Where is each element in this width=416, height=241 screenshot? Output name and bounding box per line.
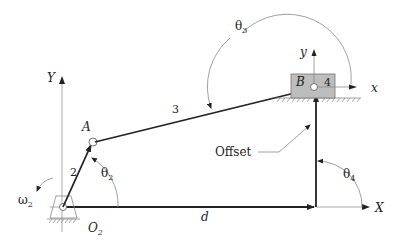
ground-pivot-label: O2: [88, 221, 103, 237]
slider-ground: [276, 98, 361, 102]
theta-3-label: θ3: [235, 19, 247, 35]
link-3-coupler: [95, 89, 311, 142]
link-3-label: 3: [172, 103, 179, 116]
distance-d-label: d: [201, 210, 209, 224]
global-x-axis-label: X: [374, 201, 384, 215]
point-a-label: A: [81, 120, 91, 134]
local-x-axis-label: x: [371, 81, 378, 95]
theta-3-arc: [242, 14, 351, 84]
slider-crank-diagram: Y X d O2 2 A 3 θ2 ω2: [0, 0, 416, 241]
pin-b: [311, 84, 318, 91]
local-y-axis-label: y: [299, 45, 307, 59]
link-2-crank: [63, 145, 91, 207]
link-2-label: 2: [70, 166, 77, 179]
global-y-axis-label: Y: [47, 71, 56, 85]
offset-label: Offset: [215, 145, 252, 159]
theta-4-label: θ4: [343, 167, 355, 183]
theta-4-arc: [318, 161, 362, 207]
ground-pivot-o2: [47, 196, 80, 223]
theta-2-label: θ2: [101, 166, 113, 182]
omega-2-label: ω2: [18, 193, 33, 209]
omega-2-arc: [37, 178, 53, 191]
offset-leader: [258, 125, 310, 152]
point-b-label: B: [295, 75, 305, 89]
